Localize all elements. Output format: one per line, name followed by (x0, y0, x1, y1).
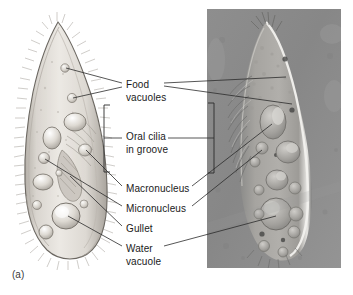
macronucleus (79, 144, 92, 156)
vacuole (33, 174, 53, 190)
micrograph-vacuole (289, 207, 303, 221)
micronucleus (39, 153, 50, 164)
micrograph-vacuole (289, 182, 301, 194)
label-food-vacuoles-line2: vacuoles (126, 92, 166, 105)
label-oral-cilia-line1: Oral cilia (126, 131, 166, 142)
label-water-vacuole-line1: Water (126, 243, 153, 254)
micrograph-vacuole (254, 185, 264, 195)
label-food-vacuoles-line1: Food (126, 79, 149, 90)
vacuole (80, 200, 88, 208)
paramecium-drawing (14, 12, 117, 270)
vacuole (56, 170, 62, 176)
food-vacuole (61, 64, 69, 72)
label-water-vacuole-line2: vacuole (126, 256, 161, 269)
label-micronucleus: Micronucleus (126, 203, 186, 216)
vacuole (33, 201, 42, 210)
label-oral-cilia-in-groove: Oral cilia in groove (126, 131, 168, 156)
micrograph-micronucleus (256, 142, 268, 154)
micrograph-vacuole (288, 226, 300, 238)
label-macronucleus: Macronucleus (126, 183, 189, 196)
label-micronucleus-text: Micronucleus (126, 203, 186, 214)
food-vacuole (67, 93, 76, 102)
label-gullet-text: Gullet (126, 223, 153, 234)
figure-paramecium-anatomy: Food vacuoles Oral cilia in groove Macro… (0, 0, 353, 295)
figure-canvas (0, 0, 353, 295)
vacuole (64, 113, 86, 131)
paramecium-micrograph (207, 9, 344, 269)
food-vacuole (289, 107, 294, 112)
label-gullet: Gullet (126, 223, 153, 236)
vacuole (43, 127, 61, 149)
label-oral-cilia-line2: in groove (126, 144, 168, 157)
vacuole (39, 225, 53, 239)
label-water-vacuole: Water vacuole (126, 243, 161, 268)
label-macronucleus-text: Macronucleus (126, 183, 189, 194)
micrograph-vacuole (259, 241, 270, 252)
label-food-vacuoles: Food vacuoles (126, 79, 166, 104)
food-vacuole (282, 56, 287, 61)
panel-letter: (a) (12, 269, 24, 280)
